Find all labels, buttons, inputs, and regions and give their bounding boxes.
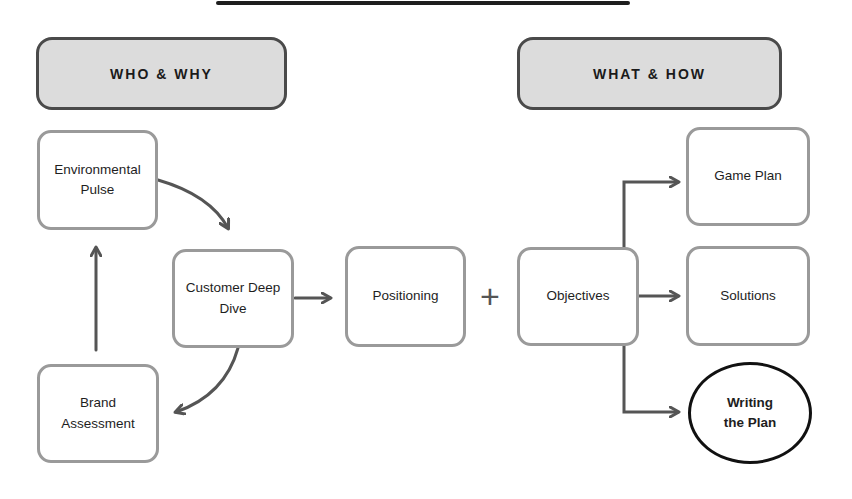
node-brand-assessment: Brand Assessment [37,364,159,463]
node-customer-deep-dive: Customer Deep Dive [172,249,294,348]
node-game-plan: Game Plan [686,127,810,226]
arrow-objectives-to-writing [624,345,678,412]
node-writing-the-plan: Writing the Plan [688,362,812,464]
plus-operator: + [480,279,500,313]
node-environmental-pulse: Environmental Pulse [37,130,158,230]
arrow-env-to-customer [158,180,228,228]
node-solutions: Solutions [686,246,810,346]
node-positioning: Positioning [345,246,466,347]
node-objectives: Objectives [517,247,639,346]
arrow-customer-to-brand [176,348,238,412]
arrow-objectives-to-gameplan [624,182,678,247]
